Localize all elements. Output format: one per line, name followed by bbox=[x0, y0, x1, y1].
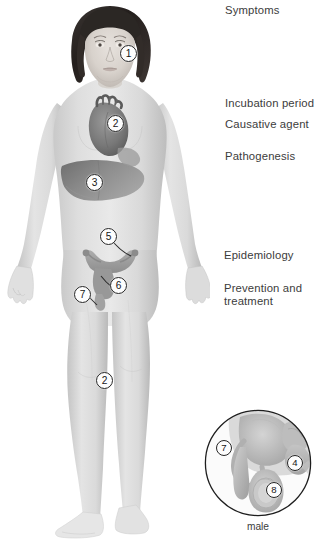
right-foot bbox=[115, 505, 149, 534]
label-prevention-treatment[interactable]: Prevention and treatment bbox=[224, 282, 312, 309]
marker-5-uterus[interactable]: 5 bbox=[100, 228, 117, 245]
label-epidemiology[interactable]: Epidemiology bbox=[224, 249, 294, 262]
marker-1-head[interactable]: 1 bbox=[120, 45, 137, 62]
label-causative-agent[interactable]: Causative agent bbox=[225, 118, 309, 131]
female-figure-svg bbox=[0, 0, 210, 548]
marker-8-inset-epididymis[interactable]: 8 bbox=[266, 482, 282, 498]
label-incubation[interactable]: Incubation period bbox=[225, 97, 314, 110]
label-symptoms[interactable]: Symptoms bbox=[225, 4, 280, 17]
female-figure bbox=[0, 0, 210, 548]
right-hand bbox=[186, 266, 210, 304]
marker-4-inset-testis[interactable]: 4 bbox=[287, 455, 303, 471]
marker-7-inset-penis[interactable]: 7 bbox=[216, 440, 232, 456]
label-pathogenesis[interactable]: Pathogenesis bbox=[225, 150, 295, 163]
marker-2-heart[interactable]: 2 bbox=[107, 115, 124, 132]
marker-7-vulva[interactable]: 7 bbox=[74, 286, 91, 303]
marker-3-liver[interactable]: 3 bbox=[86, 174, 103, 191]
diagram-canvas: 1 2 3 5 6 7 2 Symptoms Incubation period… bbox=[0, 0, 318, 548]
marker-2-knee[interactable]: 2 bbox=[96, 372, 113, 389]
left-leg bbox=[67, 312, 108, 518]
left-hand bbox=[8, 266, 34, 304]
marker-6-cervix[interactable]: 6 bbox=[110, 277, 127, 294]
